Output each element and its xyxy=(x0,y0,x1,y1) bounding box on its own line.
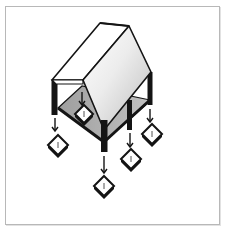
post-right xyxy=(148,72,153,105)
pile-cap-icon xyxy=(48,135,68,158)
post-left xyxy=(52,80,58,115)
pile-foundation-house-illustration xyxy=(0,0,225,230)
pile-cap-icon xyxy=(142,124,162,147)
arrow-down-icon xyxy=(147,109,153,122)
arrow-down-icon xyxy=(52,118,58,131)
arrow-down-icon xyxy=(127,133,133,147)
arrow-down-icon xyxy=(101,156,107,173)
pile-cap-icon xyxy=(94,176,114,199)
pile-cap-icon xyxy=(121,149,141,172)
post-middle-right xyxy=(127,100,132,130)
post-front-center xyxy=(101,120,108,152)
